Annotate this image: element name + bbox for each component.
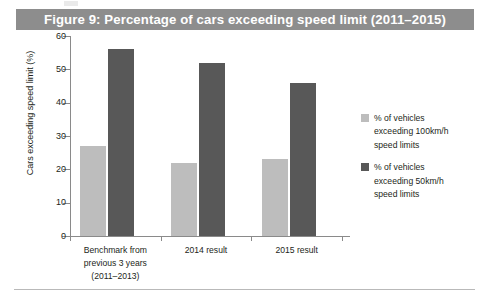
legend-label-line2: exceeding 50km/h [374,175,487,188]
bottom-divider [14,289,475,290]
bar-dark [108,49,134,236]
figure-container: Figure 9: Percentage of cars exceeding s… [0,0,489,302]
legend-label-line3: speed limits [374,188,487,201]
bar-light [262,159,288,236]
y-axis-tick-label: 60 [26,32,66,41]
y-axis-tick-label: 50 [26,65,66,74]
legend-label-line2: exceeding 100km/h [374,125,487,138]
page-title: Figure 9: Percentage of cars exceeding s… [44,12,446,27]
bar-dark [290,83,316,236]
y-axis-tick-label: 20 [26,165,66,174]
x-axis-tick [342,236,343,241]
x-category-label-line: 2015 result [229,244,364,257]
y-axis-tick-label: 40 [26,98,66,107]
bar-light [80,146,106,236]
x-category-label-line: previous 3 years [48,257,183,270]
y-axis-tick-label: 10 [26,198,66,207]
x-axis-line [62,236,350,237]
legend-label-line3: speed limits [374,139,487,152]
bar-dark [199,63,225,236]
legend-label-line1: % of vehicles [374,112,487,125]
legend-item-100kmh: % of vehicles exceeding 100km/h speed li… [361,112,487,152]
scan-artifact [64,1,78,6]
chart-legend: % of vehicles exceeding 100km/h speed li… [361,112,487,210]
legend-swatch-icon-dark [361,163,369,171]
x-axis-tick [161,236,162,241]
x-category-label: 2015 result [229,244,364,257]
bar-light [171,163,197,236]
y-axis-tick-label: 30 [26,132,66,141]
figure-title-bar: Figure 9: Percentage of cars exceeding s… [16,9,474,30]
x-axis-tick [70,236,71,241]
legend-item-50kmh: % of vehicles exceeding 50km/h speed lim… [361,161,487,201]
x-axis-tick [251,236,252,241]
legend-swatch-icon-light [361,114,369,122]
legend-label-line1: % of vehicles [374,161,487,174]
x-category-label-line: (2011–2013) [48,270,183,283]
y-axis-tick-label: 0 [26,232,66,241]
bar-layer [70,36,342,236]
